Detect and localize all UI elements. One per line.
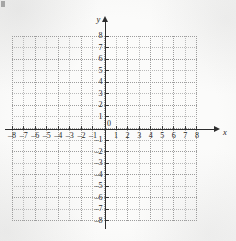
y-axis-tick xyxy=(106,82,109,83)
x-axis-tick xyxy=(58,126,59,129)
coordinate-grid-figure: –8–7–6–5–4–3–2–11234567887654321–1–2–3–4… xyxy=(0,0,236,241)
y-axis-tick xyxy=(106,105,109,106)
x-axis-arrow-icon xyxy=(214,126,220,132)
y-axis-tick xyxy=(106,70,109,71)
x-axis-tick xyxy=(150,126,151,129)
y-tick-label: –7 xyxy=(91,205,103,213)
y-axis-arrow-icon xyxy=(102,16,108,22)
x-axis-tick xyxy=(23,126,24,129)
y-tick-label: –3 xyxy=(91,159,103,167)
y-axis-tick xyxy=(106,93,109,94)
x-axis-line xyxy=(5,129,214,130)
y-tick-label: 5 xyxy=(91,67,103,75)
x-tick-label: 8 xyxy=(190,132,204,140)
y-axis-tick xyxy=(106,197,109,198)
x-axis-label: x xyxy=(223,128,227,137)
x-axis-tick xyxy=(127,126,128,129)
y-tick-label: 1 xyxy=(91,113,103,121)
plot-area: –8–7–6–5–4–3–2–11234567887654321–1–2–3–4… xyxy=(0,0,236,241)
y-tick-label: 2 xyxy=(91,101,103,109)
x-axis-tick xyxy=(69,126,70,129)
y-tick-label: –2 xyxy=(91,148,103,156)
y-tick-label: –5 xyxy=(91,182,103,190)
y-axis-tick xyxy=(106,59,109,60)
x-axis-tick xyxy=(162,126,163,129)
y-tick-label: –6 xyxy=(91,194,103,202)
x-axis-tick xyxy=(139,126,140,129)
y-axis-tick xyxy=(106,209,109,210)
y-axis-tick xyxy=(106,116,109,117)
y-tick-label: 4 xyxy=(91,78,103,86)
y-axis-tick xyxy=(106,163,109,164)
y-axis-label: y xyxy=(97,15,101,24)
y-axis-tick xyxy=(106,47,109,48)
x-axis-tick xyxy=(12,126,13,129)
y-tick-label: –8 xyxy=(91,217,103,225)
x-axis-tick xyxy=(35,126,36,129)
y-tick-label: 3 xyxy=(91,90,103,98)
x-axis-tick xyxy=(46,126,47,129)
x-axis-tick xyxy=(196,126,197,129)
x-axis-tick xyxy=(116,126,117,129)
y-axis-tick xyxy=(106,140,109,141)
y-axis-tick xyxy=(106,220,109,221)
x-axis-tick xyxy=(173,126,174,129)
y-tick-label: 8 xyxy=(91,32,103,40)
y-axis-tick xyxy=(106,174,109,175)
y-tick-label: –4 xyxy=(91,171,103,179)
y-tick-label: 7 xyxy=(91,44,103,52)
x-axis-tick xyxy=(185,126,186,129)
y-tick-label: –1 xyxy=(91,136,103,144)
y-axis-tick xyxy=(106,151,109,152)
x-axis-tick xyxy=(81,126,82,129)
y-axis-tick xyxy=(106,36,109,37)
x-axis-tick xyxy=(92,126,93,129)
y-tick-label: 6 xyxy=(91,55,103,63)
y-axis-tick xyxy=(106,186,109,187)
origin-label: 0 xyxy=(107,120,111,128)
